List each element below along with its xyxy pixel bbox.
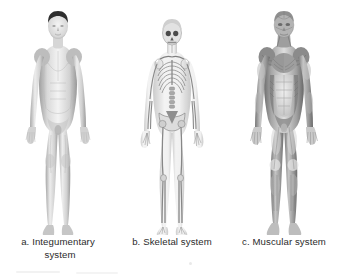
figure-captions: a. Integumentary system b. Skeletal syst…	[0, 236, 340, 274]
skeletal-body-illustration	[134, 17, 210, 235]
integumentary-body-svg	[21, 9, 95, 235]
caption-muscular-line1: c. Muscular system	[228, 236, 340, 249]
integumentary-body-illustration	[21, 9, 95, 235]
caption-integumentary-line2: system	[0, 249, 116, 262]
illustration-panels	[0, 0, 340, 236]
panel-integumentary	[0, 0, 116, 236]
skeletal-body-svg	[134, 17, 210, 235]
muscular-body-illustration	[246, 9, 322, 235]
anatomy-figure-plate: a. Integumentary system b. Skeletal syst…	[0, 0, 340, 274]
muscular-body-svg	[246, 9, 322, 235]
scan-artifact-speck	[189, 262, 192, 265]
caption-muscular: c. Muscular system	[228, 236, 340, 249]
caption-skeletal: b. Skeletal system	[116, 236, 228, 249]
caption-skeletal-line1: b. Skeletal system	[116, 236, 228, 249]
caption-integumentary: a. Integumentary system	[0, 236, 116, 261]
panel-muscular	[228, 0, 340, 236]
caption-integumentary-line1: a. Integumentary	[0, 236, 116, 249]
panel-skeletal	[116, 0, 228, 236]
scan-artifact-smudge-left	[16, 271, 60, 273]
